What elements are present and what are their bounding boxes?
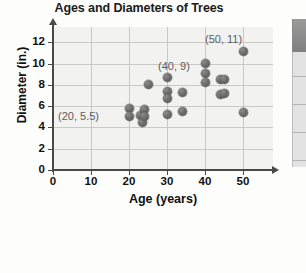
data-point (201, 59, 210, 68)
y-axis-title: Diameter (in.) (15, 20, 29, 150)
data-point (178, 107, 187, 116)
gridline-vertical (91, 27, 92, 170)
gridline-vertical (129, 27, 130, 170)
data-point (163, 73, 172, 82)
y-tick-label: 0 (15, 164, 45, 175)
data-point (220, 75, 229, 84)
x-tick-label: 30 (150, 176, 184, 187)
strip-divider (292, 104, 306, 105)
data-point (239, 108, 248, 117)
strip-divider (292, 160, 306, 161)
data-point (125, 112, 134, 121)
chart-screenshot: Ages and Diameters of Trees 024681012010… (0, 0, 306, 273)
x-tick-label: 0 (36, 176, 70, 187)
right-side-panel (289, 19, 306, 167)
gridline-horizontal (53, 127, 273, 128)
point-annotation-label: (50, 11) (205, 33, 242, 45)
data-point (163, 110, 172, 119)
gridline-horizontal (53, 106, 273, 107)
x-axis-line (52, 169, 274, 171)
data-point (220, 89, 229, 98)
strip-divider (292, 132, 306, 133)
scrollbar-thumb[interactable] (292, 19, 306, 52)
y-tick-mark (48, 42, 53, 43)
data-point (201, 78, 210, 87)
y-tick-mark (48, 106, 53, 107)
y-tick-mark (48, 127, 53, 128)
x-tick-label: 10 (74, 176, 108, 187)
gridline-vertical (205, 27, 206, 170)
chart-title: Ages and Diameters of Trees (0, 1, 278, 15)
x-tick-label: 40 (188, 176, 222, 187)
y-axis-arrow-icon (49, 18, 57, 25)
strip-divider (292, 76, 306, 77)
data-point (144, 80, 153, 89)
y-tick-mark (48, 85, 53, 86)
data-point (140, 112, 149, 121)
x-axis-arrow-icon (272, 166, 279, 174)
x-axis-title: Age (years) (53, 192, 273, 206)
gridline-horizontal (53, 85, 273, 86)
y-tick-mark (48, 64, 53, 65)
x-tick-label: 20 (112, 176, 146, 187)
point-annotation-label: (40, 9) (158, 60, 190, 72)
data-point (163, 94, 172, 103)
x-tick-label: 50 (226, 176, 260, 187)
data-point (201, 69, 210, 78)
gridline-horizontal (53, 149, 273, 150)
data-point (239, 47, 248, 56)
data-point (178, 88, 187, 97)
y-axis-line (52, 24, 54, 172)
y-tick-mark (48, 149, 53, 150)
point-annotation-label: (20, 5.5) (58, 110, 99, 122)
